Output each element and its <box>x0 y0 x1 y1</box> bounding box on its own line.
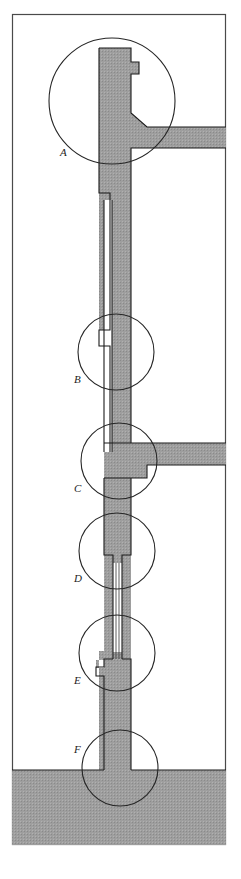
capillary-lower-shoulder-e <box>104 651 131 770</box>
inner-bore-channel <box>104 200 112 452</box>
detail-label-d: D <box>73 572 82 584</box>
detail-label-e: E <box>73 674 81 686</box>
detail-label-c: C <box>74 482 82 494</box>
base-block <box>12 770 226 845</box>
lower-horizontal-branch <box>147 443 226 465</box>
detail-label-a: A <box>59 146 67 158</box>
detail-label-b: B <box>74 373 81 385</box>
cross-section-diagram: A B C D E F <box>0 0 241 879</box>
figure-root: A B C D E F <box>0 0 241 879</box>
capillary-void-background <box>113 563 122 652</box>
detail-label-f: F <box>73 743 81 755</box>
capillary-upper-shoulder-d <box>104 452 131 563</box>
